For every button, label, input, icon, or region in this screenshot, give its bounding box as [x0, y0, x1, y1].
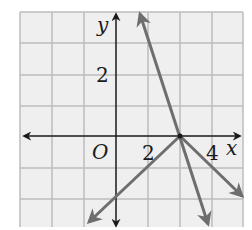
grid-background — [20, 12, 243, 227]
graph: y x O 2 2 4 — [0, 0, 252, 230]
x-tick-4: 4 — [206, 141, 219, 165]
y-tick-2: 2 — [96, 63, 109, 87]
x-tick-2: 2 — [142, 141, 155, 165]
vertex-point — [178, 134, 183, 139]
x-axis-label: x — [226, 136, 237, 160]
origin-label: O — [92, 140, 108, 164]
y-axis-label: y — [96, 13, 109, 37]
